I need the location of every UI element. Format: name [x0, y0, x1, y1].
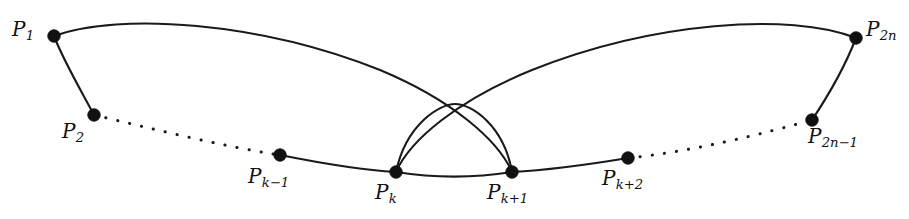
- vertex-label-P2n: P2n: [866, 19, 897, 39]
- vertex-label-subscript: k+2: [616, 177, 643, 192]
- diagram-canvas: [0, 0, 909, 219]
- edge-Pk-to-Pk+1: [396, 104, 512, 172]
- vertex-label-Pk+2: Pk+2: [602, 168, 643, 188]
- vertex-dot-P2n: [850, 32, 862, 44]
- vertex-label-subscript: 2n: [880, 28, 897, 43]
- vertex-label-P2: P2: [62, 121, 84, 141]
- vertex-label-subscript: 1: [26, 28, 34, 43]
- vertex-label-P2n-1: P2n−1: [808, 126, 858, 146]
- vertex-label-base: P: [602, 166, 616, 190]
- vertex-dot-Pk: [390, 166, 402, 178]
- vertex-label-subscript: 2n−1: [822, 135, 858, 150]
- vertex-label-P1: P1: [12, 19, 34, 39]
- vertex-label-subscript: k−1: [262, 175, 289, 190]
- vertex-label-base: P: [808, 124, 822, 148]
- vertex-label-subscript: 2: [76, 130, 84, 145]
- edge-Pk+2-to-P2n-1: [628, 120, 812, 158]
- vertex-dot-Pk+1: [506, 166, 518, 178]
- vertex-label-base: P: [866, 17, 880, 41]
- vertex-label-base: P: [375, 180, 389, 204]
- vertex-label-subscript: k+1: [501, 191, 528, 206]
- vertex-dot-P2: [88, 109, 100, 121]
- figure-root: P1P2Pk−1PkPk+1Pk+2P2n−1P2n: [0, 0, 909, 219]
- vertex-dot-Pk+2: [622, 152, 634, 164]
- edge-P2n-1-to-P2n: [812, 38, 856, 120]
- vertex-label-Pk-1: Pk−1: [248, 166, 289, 186]
- vertex-label-base: P: [12, 17, 26, 41]
- edges-layer: [54, 23, 856, 176]
- vertex-label-Pk: Pk: [375, 182, 397, 202]
- vertex-dot-P1: [48, 30, 60, 42]
- vertex-label-base: P: [487, 180, 501, 204]
- vertex-label-base: P: [62, 119, 76, 143]
- edge-P2n-to-Pk: [396, 24, 856, 172]
- vertex-label-base: P: [248, 164, 262, 188]
- vertex-dot-Pk-1: [274, 149, 286, 161]
- vertex-label-subscript: k: [389, 191, 397, 206]
- edge-Pk-1-to-Pk: [280, 155, 396, 172]
- edge-P2-to-Pk-1: [94, 115, 280, 155]
- edge-P1-to-P2: [54, 36, 94, 115]
- edge-Pk-to-Pk+1: [396, 172, 512, 177]
- vertex-label-Pk+1: Pk+1: [487, 182, 528, 202]
